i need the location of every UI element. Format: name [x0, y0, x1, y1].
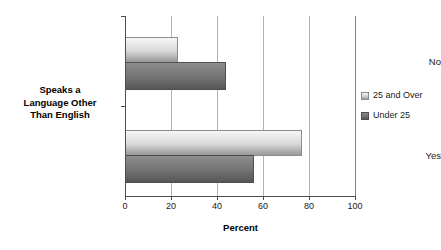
bar-no-under-25: [125, 62, 226, 90]
x-axis-title: Percent: [125, 222, 356, 234]
legend-swatch-icon-under-25: [361, 112, 369, 120]
xtick-mark-20: [171, 196, 172, 200]
xtick-label-0: 0: [105, 201, 145, 212]
bar-chart: No Yes 0 20 40 60 80 100 Speaks a Langua…: [0, 0, 441, 250]
category-tick-middle: [121, 106, 125, 107]
xtick-label-40: 40: [197, 201, 237, 212]
gridline-80: [309, 16, 310, 196]
legend-swatch-icon-25-and-over: [361, 92, 369, 100]
plot-area: [125, 16, 355, 196]
xtick-mark-100: [355, 196, 356, 200]
y-axis-title-line-3: Than English: [8, 109, 112, 122]
legend-item-under-25: Under 25: [361, 108, 423, 123]
x-axis-line: [125, 196, 356, 197]
xtick-label-20: 20: [151, 201, 191, 212]
xtick-label-80: 80: [289, 201, 329, 212]
xtick-mark-40: [217, 196, 218, 200]
xtick-mark-0: [125, 196, 126, 200]
category-label-yes: Yes: [321, 150, 441, 161]
bar-yes-under-25: [125, 155, 254, 183]
legend: 25 and Over Under 25: [361, 88, 423, 128]
xtick-mark-80: [309, 196, 310, 200]
plot-frame-right: [355, 16, 356, 197]
category-label-no: No: [321, 56, 441, 67]
legend-label-25-and-over: 25 and Over: [373, 90, 423, 101]
xtick-label-100: 100: [335, 201, 375, 212]
y-axis-title-line-2: Language Other: [8, 97, 112, 110]
xtick-label-60: 60: [243, 201, 283, 212]
gridline-60: [263, 16, 264, 196]
y-axis-title-line-1: Speaks a: [8, 84, 112, 97]
xtick-mark-60: [263, 196, 264, 200]
bar-yes-25-and-over: [125, 130, 302, 156]
bar-no-25-and-over: [125, 37, 178, 63]
category-tick-top: [121, 16, 125, 17]
legend-label-under-25: Under 25: [373, 110, 410, 121]
y-axis-line: [125, 16, 126, 197]
legend-item-25-and-over: 25 and Over: [361, 88, 423, 103]
y-axis-title: Speaks a Language Other Than English: [8, 84, 112, 122]
